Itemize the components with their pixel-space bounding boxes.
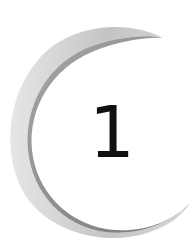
chapter-numeral: 1 bbox=[86, 92, 138, 172]
chapter-number-emblem: 1 bbox=[0, 0, 196, 250]
